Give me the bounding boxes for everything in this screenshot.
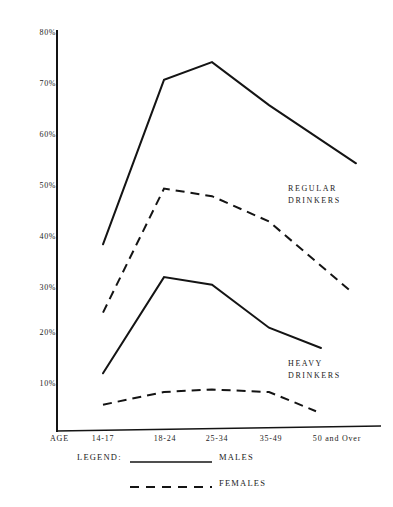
chart-container: 80% 70% 60% 50% 40% 30% 20% 10% AGE 14-1… [0,0,393,507]
series-line-heavy-females [103,390,316,412]
series-line-regular-males [103,62,356,244]
series-line-regular-females [103,189,352,313]
chart-plot-svg [0,0,393,507]
x-axis-line [56,426,381,431]
series-line-heavy-males [103,277,321,373]
